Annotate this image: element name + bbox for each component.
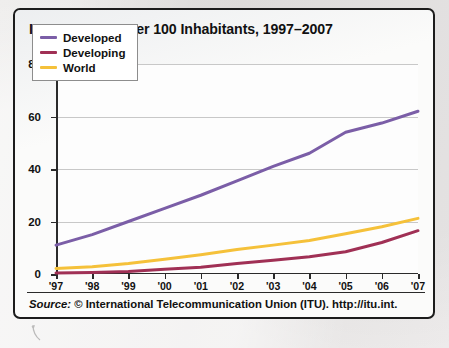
x-axis-label-02: '02 xyxy=(230,280,244,292)
legend-swatch-world xyxy=(40,66,57,69)
series-line-developing xyxy=(56,231,418,273)
x-tick-06 xyxy=(382,274,384,279)
legend-item-developed: Developed xyxy=(40,30,126,45)
plot-area xyxy=(56,64,418,274)
x-axis-label-97: '97 xyxy=(49,280,63,292)
x-axis-label-00: '00 xyxy=(157,280,171,292)
source-citation: © International Telecommunication Union … xyxy=(71,298,397,310)
x-axis-labels: '97'98'99'00'01'02'03'04'05'06'07 xyxy=(56,280,418,296)
legend-label-developing: Developing xyxy=(63,46,126,59)
x-axis-label-01: '01 xyxy=(194,280,208,292)
scan-arrow-icon xyxy=(30,324,46,342)
x-tick-04 xyxy=(309,274,311,279)
x-axis-label-05: '05 xyxy=(338,280,352,292)
x-tick-00 xyxy=(165,274,167,279)
y-axis-label-0: 0 xyxy=(35,268,41,280)
legend-swatch-developed xyxy=(40,36,57,39)
legend-item-world: World xyxy=(40,60,126,75)
x-tick-01 xyxy=(201,274,203,279)
x-tick-03 xyxy=(273,274,275,279)
legend-label-world: World xyxy=(63,61,96,74)
legend-swatch-developing xyxy=(40,51,57,54)
legend-item-developing: Developing xyxy=(40,45,126,60)
x-tick-05 xyxy=(346,274,348,279)
chart-legend: DevelopedDevelopingWorld xyxy=(32,24,138,81)
y-axis-labels: 020406080 xyxy=(13,64,41,274)
x-tick-97 xyxy=(56,274,58,279)
chart-figure: Internet Users Per 100 Inhabitants, 1997… xyxy=(13,8,435,319)
x-tick-02 xyxy=(237,274,239,279)
source-note: Source: © International Telecommunicatio… xyxy=(29,298,397,310)
x-axis-label-04: '04 xyxy=(302,280,316,292)
x-axis-label-07: '07 xyxy=(411,280,425,292)
source-label: Source: xyxy=(29,298,71,310)
series-line-developed xyxy=(56,111,418,245)
y-axis-label-40: 40 xyxy=(28,163,41,175)
x-axis-label-99: '99 xyxy=(121,280,135,292)
legend-label-developed: Developed xyxy=(63,31,122,44)
series-line-world xyxy=(56,218,418,268)
x-axis-label-98: '98 xyxy=(85,280,99,292)
x-axis-label-03: '03 xyxy=(266,280,280,292)
x-axis-label-06: '06 xyxy=(375,280,389,292)
y-axis-label-60: 60 xyxy=(28,111,41,123)
y-axis-label-20: 20 xyxy=(28,216,41,228)
x-tick-99 xyxy=(128,274,130,279)
x-tick-98 xyxy=(92,274,94,279)
source-divider xyxy=(27,292,425,293)
series-lines xyxy=(56,64,418,274)
x-tick-07 xyxy=(418,274,420,279)
